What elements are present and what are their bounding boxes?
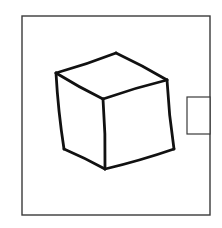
cube-edge <box>105 149 174 169</box>
cube-sketch-canvas <box>0 0 222 228</box>
cube-edge <box>56 73 103 99</box>
cube-edge <box>64 149 105 169</box>
cube-drawing <box>56 53 174 169</box>
cube-edge <box>103 99 105 169</box>
outer-frame <box>22 16 210 215</box>
cube-edge <box>56 53 116 73</box>
cube-edge <box>167 80 174 149</box>
side-tab <box>187 97 210 134</box>
cube-edge <box>116 53 167 80</box>
cube-edge <box>103 80 167 99</box>
cube-edge <box>56 73 64 149</box>
